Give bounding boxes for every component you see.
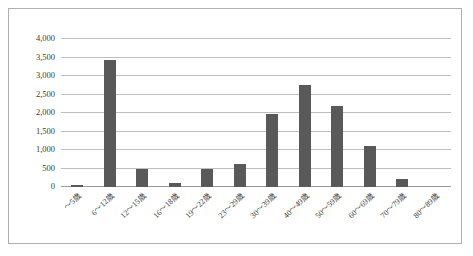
y-axis-tick-label: 3,000: [36, 71, 55, 80]
y-axis-tick-label: 2,000: [36, 108, 55, 117]
x-axis-tick-label: 40～49歳: [282, 192, 310, 220]
bar-category-slot: 19～22歳: [191, 39, 224, 187]
bar[interactable]: [364, 146, 376, 187]
y-axis-tick-label: 500: [42, 163, 55, 172]
x-axis-tick-label: 70～79歳: [380, 192, 408, 220]
bar[interactable]: [169, 183, 181, 187]
y-axis-tick-label: 4,000: [36, 34, 55, 43]
bar-category-slot: 80～89歳: [419, 39, 452, 187]
bar[interactable]: [71, 185, 83, 187]
chart-frame: 05001,0001,5002,0002,5003,0003,5004,000 …: [8, 8, 462, 244]
bar[interactable]: [234, 164, 246, 187]
bar[interactable]: [201, 169, 213, 187]
bar[interactable]: [299, 85, 311, 187]
x-axis-tick-label: 23～29歳: [217, 192, 245, 220]
y-axis-tick-label: 3,500: [36, 52, 55, 61]
bar-category-slot: 12～15歳: [126, 39, 159, 187]
bar-category-slot: 40～49歳: [289, 39, 322, 187]
x-axis-tick-label: 50～59歳: [315, 192, 343, 220]
bar[interactable]: [266, 114, 278, 187]
bar-category-slot: 23～29歳: [224, 39, 257, 187]
plot-wrapper: 05001,0001,5002,0002,5003,0003,5004,000 …: [9, 9, 461, 243]
bar-category-slot: 70～79歳: [386, 39, 419, 187]
y-axis-tick-label: 0: [51, 182, 55, 191]
bars-group: ～5歳6～12歳12～15歳16～18歳19～22歳23～29歳30～39歳40…: [61, 39, 451, 187]
x-axis-tick-label: 16～18歳: [152, 192, 180, 220]
bar-category-slot: 16～18歳: [159, 39, 192, 187]
y-axis-tick-label: 1,000: [36, 145, 55, 154]
x-axis-tick-label: 80～89歳: [412, 192, 440, 220]
x-axis-tick-label: 19～22歳: [185, 192, 213, 220]
bar[interactable]: [104, 60, 116, 187]
y-axis-tick-label: 1,500: [36, 126, 55, 135]
x-axis-tick-label: 60～69歳: [347, 192, 375, 220]
x-axis-tick-label: 30～39歳: [250, 192, 278, 220]
plot-area: 05001,0001,5002,0002,5003,0003,5004,000 …: [61, 39, 451, 187]
bar[interactable]: [136, 169, 148, 187]
x-axis-tick-label: 6～12歳: [90, 192, 115, 217]
bar-category-slot: ～5歳: [61, 39, 94, 187]
bar-category-slot: 60～69歳: [354, 39, 387, 187]
bar-category-slot: 30～39歳: [256, 39, 289, 187]
x-axis-tick-label: ～5歳: [63, 192, 83, 212]
bar[interactable]: [396, 179, 408, 188]
y-axis-tick-label: 2,500: [36, 89, 55, 98]
bar[interactable]: [331, 106, 343, 187]
bar-category-slot: 6～12歳: [94, 39, 127, 187]
bar-category-slot: 50～59歳: [321, 39, 354, 187]
x-axis-tick-label: 12～15歳: [120, 192, 148, 220]
